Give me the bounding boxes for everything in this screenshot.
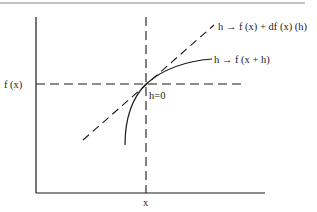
- derivative-diagram: f (x) x h=0 h → f (x) + df (x) (h) h → f…: [0, 0, 317, 212]
- function-curve: [125, 59, 212, 145]
- tangent-label: h → f (x) + df (x) (h): [218, 21, 308, 33]
- x-tick-label: x: [143, 197, 149, 208]
- curve-label: h → f (x + h): [214, 54, 270, 66]
- point-annotation: h=0: [149, 90, 165, 101]
- y-tick-label: f (x): [4, 79, 23, 91]
